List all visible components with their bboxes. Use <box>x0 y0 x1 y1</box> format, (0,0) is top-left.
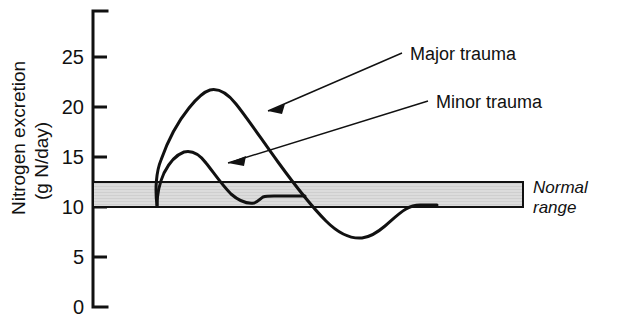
y-axis-title-line1: Nitrogen excretion <box>8 61 29 215</box>
y-tick-label-20: 20 <box>62 96 84 118</box>
minor-trauma-label: Minor trauma <box>436 92 543 112</box>
chart-canvas: 25 20 15 10 5 0 Nitrogen excretion (g N/… <box>0 0 626 328</box>
y-tick-label-5: 5 <box>73 246 84 268</box>
y-tick-label-15: 15 <box>62 146 84 168</box>
normal-range-legend: Normal range <box>533 178 589 217</box>
y-axis-ticks <box>93 57 107 257</box>
normal-range-label-line2: range <box>533 198 576 217</box>
minor-trauma-arrowhead <box>228 156 246 166</box>
y-tick-label-25: 25 <box>62 46 84 68</box>
y-axis-line <box>93 11 107 307</box>
minor-trauma-annotation: Minor trauma <box>228 92 543 166</box>
major-trauma-arrowhead <box>268 104 285 114</box>
y-tick-label-10: 10 <box>62 196 84 218</box>
major-trauma-leader-line <box>268 53 402 111</box>
nitrogen-excretion-chart: 25 20 15 10 5 0 Nitrogen excretion (g N/… <box>0 0 626 328</box>
y-tick-label-0: 0 <box>73 296 84 318</box>
major-trauma-label: Major trauma <box>410 44 517 64</box>
y-axis-title-line2: (g N/day) <box>31 122 52 200</box>
normal-range-label-line1: Normal <box>533 178 589 197</box>
y-axis-title: Nitrogen excretion (g N/day) <box>8 61 52 215</box>
y-axis-tick-labels: 25 20 15 10 5 0 <box>62 46 84 318</box>
